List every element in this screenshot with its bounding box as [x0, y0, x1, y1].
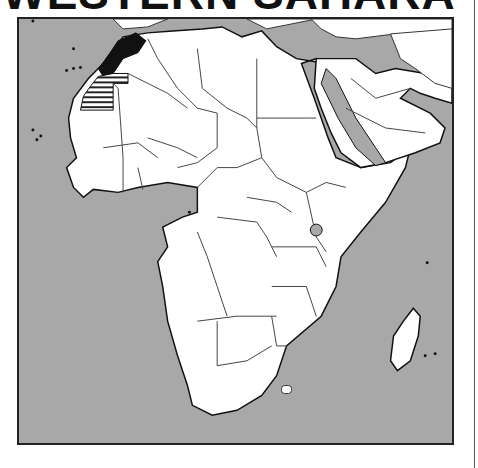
africa-map — [19, 19, 452, 443]
country-lesotho — [282, 386, 292, 394]
page-edge-line — [474, 0, 475, 468]
lake-victoria — [310, 224, 322, 236]
map-frame — [17, 17, 454, 445]
